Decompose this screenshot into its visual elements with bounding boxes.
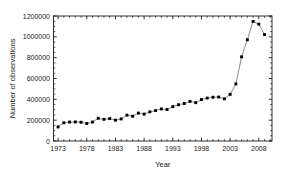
y-tick-label: 200000: [27, 117, 50, 124]
data-point: [68, 121, 71, 124]
data-point: [131, 115, 134, 118]
y-tick-labels: 020000040000060000080000010000001200000: [23, 13, 50, 145]
data-point: [229, 93, 232, 96]
series-polyline: [58, 21, 264, 127]
y-tick-label: 0: [46, 138, 50, 145]
x-axis-title: Year: [155, 160, 171, 169]
data-point: [217, 96, 220, 99]
y-axis-title: Number of observations: [8, 38, 17, 118]
data-point: [114, 119, 117, 122]
data-point: [257, 23, 260, 26]
y-tick-label: 1200000: [23, 13, 50, 20]
x-tick-label: 1988: [136, 145, 152, 152]
y-tick-label: 1000000: [23, 33, 50, 40]
x-tick-label: 1983: [108, 145, 124, 152]
x-tick-labels: 19731978198319881993199820032008: [50, 145, 266, 152]
x-tick-label: 1998: [194, 145, 210, 152]
data-point: [125, 114, 128, 117]
y-tick-label: 400000: [27, 96, 50, 103]
data-series-line: [58, 21, 264, 127]
x-tick-label: 1978: [79, 145, 95, 152]
x-tick-label: 1973: [50, 145, 66, 152]
data-point: [206, 97, 209, 100]
data-point: [194, 101, 197, 104]
data-point: [234, 82, 237, 85]
data-point: [223, 97, 226, 100]
data-point: [240, 55, 243, 58]
y-tick-label: 600000: [27, 75, 50, 82]
chart-figure: 19731978198319881993199820032008 0200000…: [0, 0, 283, 178]
data-point: [154, 109, 157, 112]
data-point: [143, 113, 146, 116]
data-point: [74, 120, 77, 123]
data-point: [166, 108, 169, 111]
data-point: [108, 117, 111, 120]
x-tick-label: 2003: [222, 145, 238, 152]
y-tick-label: 800000: [27, 54, 50, 61]
data-point: [200, 98, 203, 101]
data-point: [263, 33, 266, 36]
data-point: [57, 125, 60, 128]
data-point: [137, 112, 140, 115]
data-point: [148, 110, 151, 113]
data-point: [103, 118, 106, 121]
data-point: [171, 105, 174, 108]
data-point: [252, 20, 255, 23]
data-point: [160, 107, 163, 110]
x-tick-label: 2008: [251, 145, 267, 152]
data-point: [183, 102, 186, 105]
data-series-points: [57, 20, 266, 128]
data-point: [177, 103, 180, 106]
data-point: [97, 117, 100, 120]
data-point: [211, 96, 214, 99]
data-point: [189, 100, 192, 103]
data-point: [62, 121, 65, 124]
data-point: [85, 122, 88, 125]
data-point: [91, 121, 94, 124]
data-point: [80, 121, 83, 124]
chart-canvas: 19731978198319881993199820032008 0200000…: [0, 0, 283, 178]
x-tick-label: 1993: [165, 145, 181, 152]
data-point: [246, 38, 249, 41]
data-point: [120, 117, 123, 120]
